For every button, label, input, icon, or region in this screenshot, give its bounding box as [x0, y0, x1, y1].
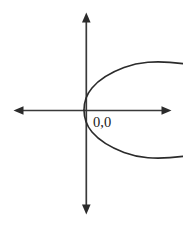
- parabola-upper-branch: [84, 62, 183, 110]
- x-axis-right-arrowhead-icon: [162, 106, 172, 115]
- y-axis-bottom-arrowhead-icon: [82, 205, 91, 215]
- y-axis-top-arrowhead-icon: [82, 13, 91, 23]
- coordinate-plane-svg: 0,0: [0, 0, 183, 228]
- origin-label: 0,0: [93, 114, 111, 130]
- x-axis-left-arrowhead-icon: [14, 106, 24, 115]
- y-axis-group: [82, 13, 91, 215]
- graph-figure: 0,0: [0, 0, 183, 228]
